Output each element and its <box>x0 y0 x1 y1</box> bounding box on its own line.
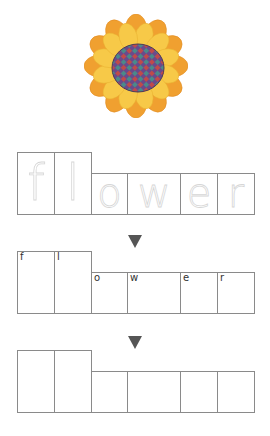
letter-box[interactable]: w <box>127 272 181 314</box>
dotted-letter: o <box>92 174 127 212</box>
letter-box[interactable] <box>127 371 181 413</box>
flower-illustration <box>84 14 188 118</box>
dotted-letter: l <box>55 154 91 212</box>
dotted-letter: w <box>128 174 180 212</box>
letter-box[interactable]: o <box>91 173 128 215</box>
letter-box[interactable]: l <box>54 251 92 314</box>
dotted-letter: e <box>181 174 217 212</box>
letter-label: o <box>94 272 100 284</box>
letter-box[interactable]: o <box>91 272 128 314</box>
letter-box[interactable]: e <box>180 173 218 215</box>
down-triangle-icon <box>128 336 142 349</box>
down-triangle-icon <box>128 235 142 248</box>
letter-box[interactable]: r <box>217 173 255 215</box>
letter-box[interactable]: f <box>17 251 55 314</box>
letter-box[interactable]: r <box>217 272 255 314</box>
letter-box[interactable]: e <box>180 272 218 314</box>
letter-box[interactable]: l <box>54 152 92 215</box>
flower-center <box>112 44 164 92</box>
letter-label: r <box>220 272 224 284</box>
letter-box[interactable] <box>180 371 218 413</box>
letter-label: f <box>20 251 24 263</box>
blank-row <box>0 350 270 414</box>
trace-row: f l o w e r <box>0 152 270 216</box>
dotted-letter: f <box>18 154 54 212</box>
letter-box[interactable]: w <box>127 173 181 215</box>
letter-box[interactable] <box>54 350 92 413</box>
letter-box[interactable] <box>91 371 128 413</box>
letter-label: w <box>130 272 138 284</box>
letter-label: e <box>183 272 189 284</box>
letter-label: l <box>57 251 60 263</box>
labeled-row: f l o w e r <box>0 251 270 315</box>
dotted-letter: r <box>218 174 254 212</box>
letter-box[interactable]: f <box>17 152 55 215</box>
letter-box[interactable] <box>217 371 255 413</box>
letter-box[interactable] <box>17 350 55 413</box>
